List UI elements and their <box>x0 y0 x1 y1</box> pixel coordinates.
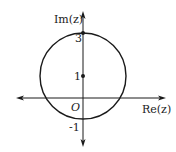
real-axis <box>16 96 166 101</box>
point-1-center <box>81 74 85 78</box>
tick-label-1: 1 <box>74 70 81 83</box>
tick-label-neg1: -1 <box>69 121 80 134</box>
real-axis-label: Re(z) <box>142 103 171 116</box>
origin-label: O <box>71 101 80 114</box>
complex-plane-diagram: Im(z) Re(z) O 3 1 -1 <box>0 0 176 152</box>
tick-label-3: 3 <box>75 32 82 45</box>
imaginary-axis-label: Im(z) <box>54 13 83 26</box>
